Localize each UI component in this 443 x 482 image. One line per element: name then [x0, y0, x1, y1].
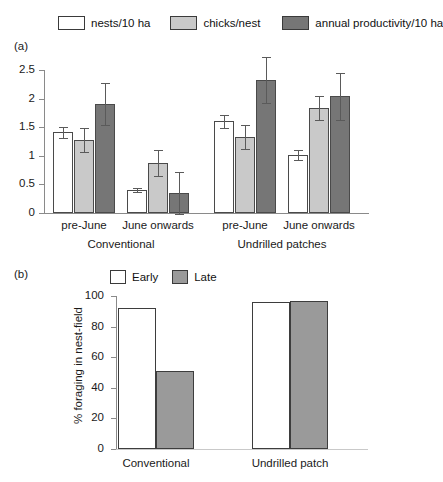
error-bar-cap: [80, 152, 89, 153]
error-bar: [319, 96, 320, 120]
legend-swatch-white-icon: [58, 16, 85, 30]
panel-b-y-tick-label: 0: [74, 443, 104, 453]
panel-b-bars: [117, 296, 367, 449]
error-bar-cap: [336, 73, 345, 74]
error-bar: [63, 127, 64, 138]
error-bar-cap: [175, 172, 184, 173]
error-bar-cap: [294, 160, 303, 161]
error-bar-cap: [220, 115, 229, 116]
panel-a-y-tick-label: 1.5: [5, 121, 35, 131]
panel-a-y-tick: [39, 156, 44, 157]
panel-b-y-tick: [111, 418, 116, 419]
panel-b-x-tick-label: Conventional: [88, 457, 224, 469]
legend-item-early: Early: [110, 270, 158, 284]
panel-b-y-tick-label: 40: [74, 382, 104, 392]
panel-b-label: (b): [14, 268, 28, 280]
panel-b-y-tick: [111, 327, 116, 328]
error-bar-cap: [241, 125, 250, 126]
error-bar-cap: [154, 150, 163, 151]
error-bar-cap: [175, 214, 184, 215]
error-bar-cap: [133, 192, 142, 193]
panel-a-y-tick: [39, 213, 44, 214]
bar: [290, 301, 328, 449]
error-bar: [84, 128, 85, 152]
error-bar-cap: [59, 127, 68, 128]
panel-a-y-tick: [39, 99, 44, 100]
panel-a-y-tick: [39, 70, 44, 71]
panel-a-y-tick-label: 0: [5, 207, 35, 217]
legend-swatch-early-white-icon: [110, 270, 126, 284]
legend-swatch-dark-gray-icon: [282, 16, 309, 30]
panel-b-y-tick: [111, 388, 116, 389]
bar: [156, 371, 194, 449]
bar: [252, 302, 290, 449]
panel-b-y-tick: [111, 449, 116, 450]
panel-b-y-tick: [111, 357, 116, 358]
legend-item-nests: nests/10 ha: [58, 16, 150, 30]
panel-b-x-tick-label: Undrilled patch: [222, 457, 358, 469]
error-bar-cap: [133, 188, 142, 189]
panel-a-y-tick-label: 2.5: [5, 64, 35, 74]
panel-a-y-tick-label: 2: [5, 93, 35, 103]
panel-b-y-tick-label: 20: [74, 412, 104, 422]
legend-item-productivity: annual productivity/10 ha: [282, 16, 443, 30]
legend-label-late: Late: [194, 271, 216, 283]
error-bar: [158, 150, 159, 176]
bar: [118, 308, 156, 449]
panel-a-label: (a): [14, 40, 28, 52]
legend-label-nests: nests/10 ha: [91, 17, 150, 29]
panel-b-y-tick-label: 60: [74, 351, 104, 361]
panel-b-y-tick: [111, 296, 116, 297]
error-bar-cap: [241, 149, 250, 150]
panel-a-x-tick-label: June onwards: [266, 219, 372, 231]
error-bar: [298, 150, 299, 160]
bar: [288, 155, 308, 213]
error-bar-cap: [101, 83, 110, 84]
bar: [309, 108, 329, 213]
error-bar-cap: [80, 128, 89, 129]
error-bar-cap: [262, 103, 271, 104]
legend-swatch-light-gray-icon: [170, 16, 197, 30]
legend-swatch-late-gray-icon: [172, 270, 188, 284]
panel-b-y-tick-label: 80: [74, 321, 104, 331]
error-bar: [266, 57, 267, 103]
legend-panel-b: Early Late: [110, 270, 217, 284]
error-bar: [245, 125, 246, 149]
error-bar-cap: [154, 176, 163, 177]
legend-label-early: Early: [132, 271, 158, 283]
panel-a-y-tick-label: 1: [5, 150, 35, 160]
error-bar: [105, 83, 106, 125]
legend-label-productivity: annual productivity/10 ha: [315, 17, 443, 29]
error-bar-cap: [262, 57, 271, 58]
panel-a-bars: [45, 70, 369, 213]
panel-a-y-tick-label: 0.5: [5, 178, 35, 188]
error-bar-cap: [59, 138, 68, 139]
legend-item-late: Late: [172, 270, 216, 284]
error-bar-cap: [294, 150, 303, 151]
error-bar: [340, 73, 341, 120]
error-bar-cap: [315, 96, 324, 97]
error-bar-cap: [101, 125, 110, 126]
error-bar-cap: [220, 128, 229, 129]
bar: [214, 121, 234, 213]
legend-panel-a: nests/10 ha chicks/nest annual productiv…: [58, 13, 378, 33]
panel-b-y-tick-label: 100: [74, 290, 104, 300]
error-bar: [224, 115, 225, 129]
legend-item-chicks: chicks/nest: [170, 16, 260, 30]
panel-b-x-axis: [116, 449, 368, 450]
error-bar-cap: [336, 120, 345, 121]
panel-a-x-axis: [44, 213, 369, 214]
panel-a-y-tick: [39, 184, 44, 185]
panel-a-y-tick: [39, 127, 44, 128]
error-bar: [179, 172, 180, 214]
legend-label-chicks: chicks/nest: [203, 17, 260, 29]
error-bar-cap: [315, 120, 324, 121]
bar: [127, 190, 147, 213]
bar: [53, 132, 73, 213]
panel-a-group-label: Undrilled patches: [184, 238, 380, 250]
